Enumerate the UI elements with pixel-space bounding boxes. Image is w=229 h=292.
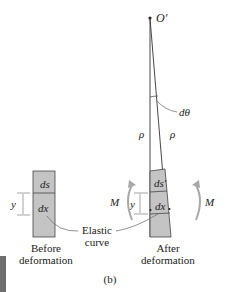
element-before: ds dx y <box>10 171 55 237</box>
bending-deformation-diagram: O′ dθ ρ ρ ds dx y ds′ dx y M <box>0 0 229 292</box>
elastic-curve-label-line2: curve <box>85 236 110 248</box>
moment-label-left: M <box>109 196 120 208</box>
after-y-label: y <box>129 198 135 210</box>
angle-leader <box>157 101 177 112</box>
before-ds-label: ds <box>40 178 50 190</box>
page-edge-tab <box>0 256 6 292</box>
before-caption-line2: deformation <box>19 254 73 266</box>
radius-label-right: ρ <box>169 128 175 140</box>
before-caption-line1: Before <box>31 242 61 254</box>
angle-label: dθ <box>179 106 191 118</box>
radius-label-left: ρ <box>138 128 144 140</box>
after-caption-line2: deformation <box>141 254 195 266</box>
before-y-label: y <box>10 198 16 210</box>
origin-label: O′ <box>156 11 168 25</box>
after-ds-label: ds′ <box>154 177 167 189</box>
elastic-curve-label-line1: Elastic <box>82 224 112 236</box>
moment-arrow-right-icon <box>192 180 200 220</box>
figure-label: (b) <box>104 273 117 286</box>
before-dx-label: dx <box>38 202 49 214</box>
element-after: ds′ dx y <box>129 169 171 237</box>
after-dx-label: dx <box>155 200 166 212</box>
after-caption-line1: After <box>156 242 180 254</box>
moment-label-right: M <box>204 196 215 208</box>
